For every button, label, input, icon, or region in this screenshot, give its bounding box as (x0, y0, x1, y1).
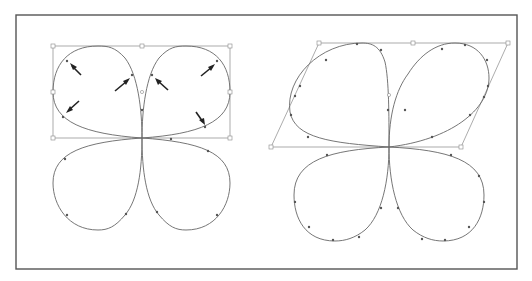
right-upper-right-lobe (389, 43, 489, 147)
left-upper-right-lobe (142, 46, 230, 138)
arrow-icon (70, 63, 81, 75)
diagram-canvas (0, 0, 532, 281)
left-lower-left-lobe (53, 138, 142, 230)
left-upper-left-lobe (53, 46, 142, 138)
left-inward-arrows (66, 63, 215, 125)
arrow-icon (155, 78, 168, 90)
left-butterfly-shape (51, 44, 232, 230)
right-upper-left-lobe (290, 43, 389, 147)
arrow-icon (201, 64, 215, 76)
arrow-icon (66, 101, 79, 113)
arrow-icon (115, 78, 130, 91)
left-lower-right-lobe (142, 138, 230, 230)
outer-frame (16, 15, 517, 269)
arrow-icon (196, 112, 205, 125)
right-butterfly-shape (269, 41, 510, 241)
